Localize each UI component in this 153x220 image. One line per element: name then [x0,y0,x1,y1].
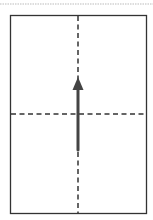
fold-diagram [0,0,153,220]
